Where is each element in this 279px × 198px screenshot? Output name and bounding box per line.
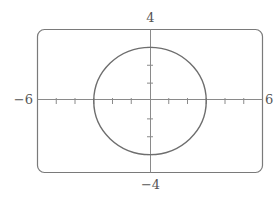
x-min-label: −6 <box>14 92 33 107</box>
y-max-label: 4 <box>146 10 154 25</box>
x-max-label: 6 <box>265 92 273 107</box>
graph-window: 4 −4 −6 6 <box>0 0 279 198</box>
y-min-label: −4 <box>141 177 160 192</box>
